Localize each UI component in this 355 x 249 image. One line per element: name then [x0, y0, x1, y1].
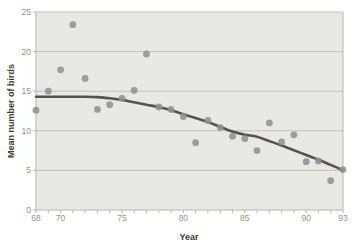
- data-point: [266, 120, 273, 127]
- data-point: [327, 177, 334, 184]
- data-point: [168, 106, 175, 113]
- data-point: [143, 51, 150, 58]
- y-tick-label: 5: [26, 165, 31, 175]
- data-point: [340, 166, 347, 173]
- data-point: [217, 124, 224, 131]
- data-point: [57, 66, 64, 73]
- data-point: [315, 158, 322, 165]
- data-point: [278, 139, 285, 146]
- data-point: [119, 95, 126, 102]
- y-tick-label: 25: [22, 7, 32, 17]
- x-tick-label: 90: [301, 213, 311, 223]
- data-point: [229, 133, 236, 140]
- y-axis-title: Mean number of birds: [6, 64, 16, 158]
- data-point: [291, 131, 298, 138]
- data-point: [131, 87, 138, 94]
- x-axis-title: Year: [179, 232, 199, 242]
- data-point: [241, 135, 248, 142]
- y-tick-label: 20: [22, 47, 32, 57]
- x-tick-label: 70: [56, 213, 66, 223]
- data-point: [303, 158, 310, 165]
- x-tick-label: 68: [31, 213, 41, 223]
- data-point: [155, 104, 162, 111]
- plot-layer: 687075808590930510152025: [22, 7, 348, 223]
- chart: 687075808590930510152025 Year Mean numbe…: [0, 0, 355, 249]
- y-tick-label: 15: [22, 86, 32, 96]
- x-tick-label: 85: [240, 213, 250, 223]
- data-point: [192, 139, 199, 146]
- data-point: [106, 101, 113, 108]
- data-point: [254, 147, 261, 154]
- scatter-chart: 687075808590930510152025 Year Mean numbe…: [0, 0, 355, 249]
- x-tick-label: 75: [117, 213, 127, 223]
- data-point: [45, 88, 52, 95]
- x-tick-label: 80: [179, 213, 189, 223]
- y-tick-label: 10: [22, 126, 32, 136]
- data-point: [82, 75, 89, 82]
- data-point: [180, 113, 187, 120]
- plot-area: [36, 12, 343, 210]
- data-point: [33, 107, 40, 114]
- data-point: [94, 106, 101, 113]
- data-point: [69, 21, 76, 28]
- x-tick-label: 93: [338, 213, 348, 223]
- data-point: [205, 117, 212, 124]
- y-tick-label: 0: [26, 205, 31, 215]
